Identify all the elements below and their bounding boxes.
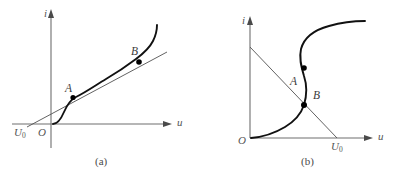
point-label-a-B: B [131,46,138,58]
figure-root: i u O U0 A B (a) [0,0,409,177]
point-label-a-A: A [65,83,72,95]
operating-point-b-A [301,65,307,71]
load-line-b [250,47,337,138]
x-intercept-letter-a: U [14,126,22,138]
y-axis-label-b: i [242,15,245,26]
origin-label-b: O [238,135,246,146]
panel-caption-b: (b) [301,155,314,167]
y-axis-label-a: i [44,8,47,19]
chart-panel-a: i u O U0 A B (a) [0,0,205,177]
point-label-b-A: A [290,76,297,88]
x-axis-b [250,135,373,141]
characteristic-curve-a [53,25,157,124]
panel-caption-a: (a) [95,155,107,167]
x-intercept-label-b: U0 [331,141,343,152]
y-axis-a [48,9,54,148]
x-axis-label-a: u [177,117,183,128]
x-axis-label-b: u [378,131,384,142]
load-line-a [27,52,167,127]
y-axis-b [247,16,253,138]
x-intercept-label-a: U0 [14,127,26,138]
operating-point-a-B [136,59,142,65]
x-intercept-sub-b: 0 [339,145,343,154]
chart-panel-b: i u O U0 A B (b) [205,0,409,177]
chart-svg-b [205,0,409,177]
x-intercept-letter-b: U [331,140,339,152]
operating-point-a-A [70,95,75,100]
x-intercept-sub-a: 0 [22,131,26,140]
chart-svg-a [0,0,205,177]
origin-label-a: O [38,127,46,138]
characteristic-curve-b [251,21,365,138]
point-label-b-B: B [313,90,320,102]
operating-point-b-B [301,102,307,108]
